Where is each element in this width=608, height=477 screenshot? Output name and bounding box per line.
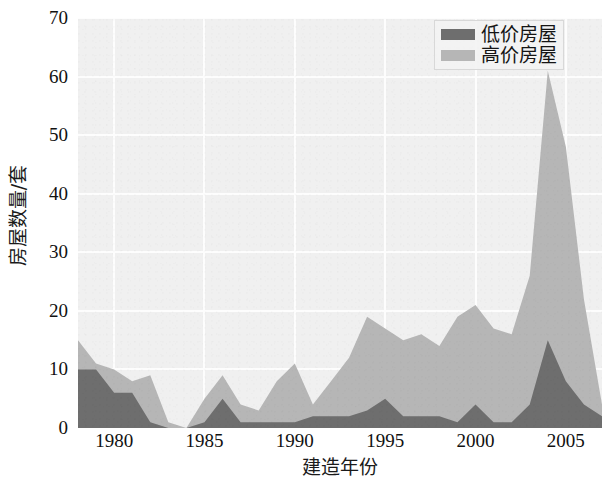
stacked-area-series: [78, 18, 602, 428]
legend-label-high-price: 高价房屋: [481, 46, 557, 65]
x-tick-label: 1995: [366, 430, 404, 452]
y-axis-title: 房屋数量/套: [0, 0, 34, 430]
y-tick-label: 60: [49, 66, 68, 88]
y-tick-label: 0: [59, 417, 69, 439]
chart-figure: 房屋数量/套 010203040506070 19801985199019952…: [0, 0, 608, 477]
legend-label-low-price: 低价房屋: [481, 25, 557, 44]
y-tick-label: 50: [49, 124, 68, 146]
x-tick-label: 2005: [547, 430, 585, 452]
legend-swatch-high-price: [441, 50, 475, 61]
y-tick-label: 70: [49, 7, 68, 29]
legend-swatch-low-price: [441, 29, 475, 40]
legend-item-high-price: 高价房屋: [441, 46, 557, 65]
chart-legend: 低价房屋 高价房屋: [434, 20, 564, 70]
x-tick-label: 2000: [457, 430, 495, 452]
area-series-high-price: [78, 71, 602, 428]
y-tick-label: 10: [49, 358, 68, 380]
x-tick-label: 1990: [276, 430, 314, 452]
y-axis-title-text: 房屋数量/套: [4, 164, 31, 265]
plot-area: [78, 18, 602, 428]
y-tick-label: 40: [49, 183, 68, 205]
x-tick-label: 1985: [185, 430, 223, 452]
y-tick-label: 30: [49, 241, 68, 263]
x-axis-title: 建造年份: [78, 452, 602, 477]
y-tick-label: 20: [49, 300, 68, 322]
y-axis-tick-labels: 010203040506070: [30, 0, 74, 477]
legend-item-low-price: 低价房屋: [441, 25, 557, 44]
x-tick-label: 1980: [95, 430, 133, 452]
